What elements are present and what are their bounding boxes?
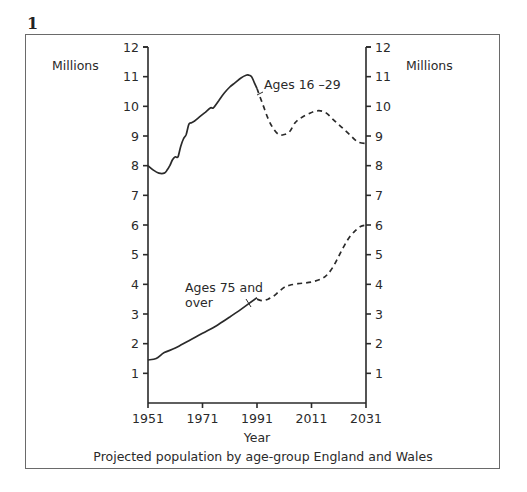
left-y-tick-label: 8 [131,158,139,173]
left-y-tick-label: 3 [131,307,139,322]
ages-16-29-projected-line [257,89,366,144]
right-y-tick-label: 5 [375,247,383,262]
right-axis-unit-label: Millions [406,58,453,73]
left-y-tick-label: 12 [123,40,139,55]
ages-16-29-actual-line [148,75,257,174]
series-lines [148,75,366,360]
right-y-tick-label: 7 [375,188,383,203]
left-y-tick-label: 9 [131,129,139,144]
right-y-tick-label: 12 [375,40,391,55]
x-tick-label: 2011 [296,411,328,426]
left-y-tick-label: 11 [123,69,139,84]
right-y-tick-label: 10 [375,99,391,114]
left-y-tick-label: 6 [131,218,139,233]
x-axis-title: Year [243,430,271,445]
right-y-tick-label: 2 [375,336,383,351]
left-y-tick-label: 7 [131,188,139,203]
right-y-tick-label: 3 [375,307,383,322]
right-y-tick-label: 9 [375,129,383,144]
ages-75-over-label: over [185,295,214,310]
ages-16-29-label: Ages 16 –29 [264,77,341,92]
ages-75-over-projected-line [257,225,366,301]
left-y-tick-label: 4 [131,277,139,292]
left-y-tick-label: 2 [131,336,139,351]
left-y-tick-label: 10 [123,99,139,114]
right-y-tick-label: 11 [375,69,391,84]
right-y-tick-label: 8 [375,158,383,173]
line-chart: 1122334455667788991010111112121951197119… [0,0,527,492]
ages-75-over-label: Ages 75 and [185,280,263,295]
figure-caption: Projected population by age-group Englan… [93,449,432,464]
left-y-tick-label: 5 [131,247,139,262]
right-y-tick-label: 1 [375,366,383,381]
x-tick-label: 1991 [241,411,273,426]
left-y-tick-label: 1 [131,366,139,381]
x-tick-label: 1951 [132,411,164,426]
left-axis-unit-label: Millions [52,58,99,73]
x-tick-label: 1971 [187,411,219,426]
x-tick-label: 2031 [350,411,382,426]
annotations: Ages 16 –29Ages 75 andover [185,77,341,310]
right-y-tick-label: 4 [375,277,383,292]
axes: 1122334455667788991010111112121951197119… [123,40,391,427]
right-y-tick-label: 6 [375,218,383,233]
